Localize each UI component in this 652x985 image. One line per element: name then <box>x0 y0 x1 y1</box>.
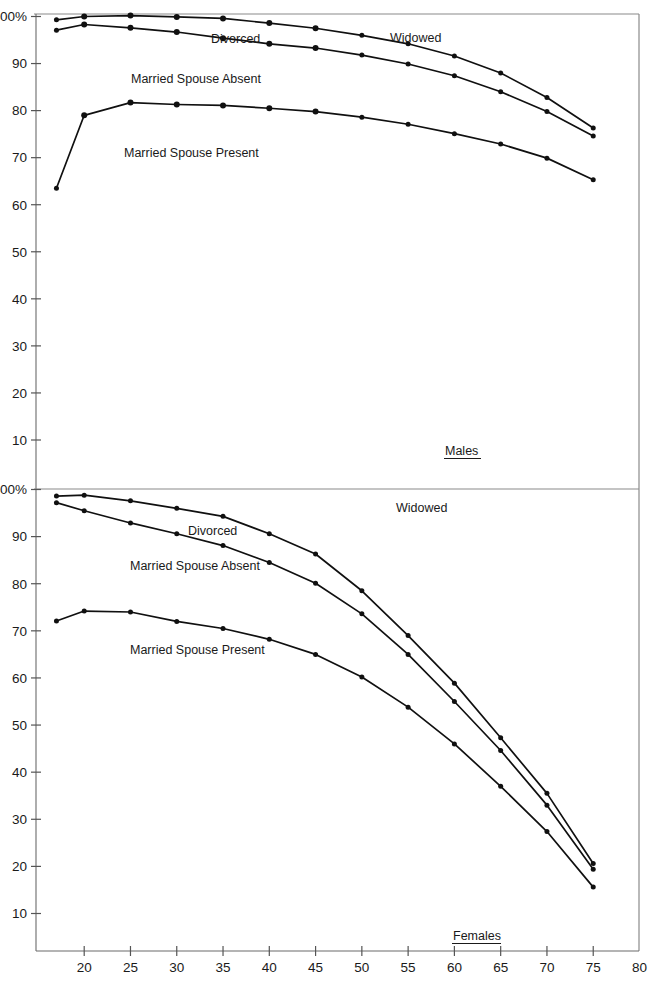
y-tick-label: 30 <box>12 812 27 827</box>
data-point <box>591 861 596 866</box>
data-point <box>82 493 87 498</box>
annotation-married-spouse-absent: Married Spouse Absent <box>131 72 261 86</box>
data-point <box>313 581 318 586</box>
chart-canvas: 100%908070605040302010DivorcedWidowedMar… <box>0 0 652 985</box>
annotation-married-spouse-absent: Married Spouse Absent <box>130 559 260 573</box>
data-point <box>81 112 87 118</box>
data-point <box>359 675 364 680</box>
x-tick-label: 60 <box>447 960 462 975</box>
data-point <box>267 637 272 642</box>
x-tick-label: 75 <box>586 960 601 975</box>
x-tick-label: 50 <box>354 960 369 975</box>
data-point <box>127 25 133 31</box>
data-point <box>591 126 596 131</box>
data-point <box>174 619 179 624</box>
data-point <box>313 45 319 51</box>
x-tick-label: 25 <box>123 960 138 975</box>
x-tick-label: 45 <box>308 960 323 975</box>
y-tick-label: 70 <box>12 624 27 639</box>
panel-label-females: Females <box>453 929 501 943</box>
data-point <box>54 494 59 499</box>
annotation-divorced: Divorced <box>188 524 237 538</box>
annotation-widowed: Widowed <box>396 501 447 515</box>
y-tick-label: 60 <box>12 198 27 213</box>
data-point <box>544 803 549 808</box>
data-point <box>452 131 457 136</box>
data-point <box>174 531 179 536</box>
data-point <box>452 54 457 59</box>
x-tick-label: 65 <box>493 960 508 975</box>
data-point <box>313 652 318 657</box>
y-tick-label: 20 <box>12 859 27 874</box>
y-tick-label: 50 <box>12 245 27 260</box>
data-point <box>220 15 226 21</box>
data-point <box>544 791 549 796</box>
marital-status-chart-figure: 100%908070605040302010DivorcedWidowedMar… <box>0 0 652 985</box>
x-tick-label: 40 <box>262 960 277 975</box>
x-tick-label: 30 <box>169 960 184 975</box>
data-point <box>266 105 272 111</box>
data-point <box>591 867 596 872</box>
data-point <box>406 652 411 657</box>
data-point <box>313 109 319 115</box>
y-tick-label: 70 <box>12 150 27 165</box>
y-tick-label: 10 <box>12 906 27 921</box>
y-tick-label: 60 <box>12 671 27 686</box>
data-point <box>54 618 59 623</box>
data-point <box>452 741 457 746</box>
y-tick-label: 90 <box>12 529 27 544</box>
data-point <box>54 28 59 33</box>
y-tick-label: 90 <box>12 56 27 71</box>
annotation-divorced: Divorced <box>211 32 260 46</box>
data-point <box>174 14 180 20</box>
data-point <box>221 543 226 548</box>
data-point <box>544 156 549 161</box>
data-point <box>591 177 596 182</box>
data-point <box>127 13 133 19</box>
data-point <box>359 588 364 593</box>
data-point <box>174 101 180 107</box>
data-point <box>498 748 503 753</box>
data-point <box>406 62 411 67</box>
data-point <box>359 33 364 38</box>
data-point <box>267 531 272 536</box>
series-line-divorced <box>56 503 593 870</box>
annotation-married-spouse-present: Married Spouse Present <box>124 146 259 160</box>
data-point <box>498 89 503 94</box>
y-tick-label: 80 <box>12 577 27 592</box>
panel-label-males: Males <box>445 444 478 458</box>
data-point <box>54 500 59 505</box>
x-tick-label: 35 <box>216 960 231 975</box>
data-point <box>127 100 133 106</box>
x-tick-label: 70 <box>539 960 554 975</box>
data-point <box>452 699 457 704</box>
data-point <box>81 14 87 20</box>
data-point <box>128 520 133 525</box>
y-tick-label: 10 <box>12 433 27 448</box>
y-tick-label: 80 <box>12 103 27 118</box>
data-point <box>591 134 596 139</box>
data-point <box>313 552 318 557</box>
y-tick-label: 100% <box>0 482 27 497</box>
data-point <box>266 41 272 47</box>
data-point <box>452 681 457 686</box>
data-point <box>591 885 596 890</box>
y-tick-label: 100% <box>0 9 27 24</box>
data-point <box>544 109 549 114</box>
data-point <box>221 514 226 519</box>
x-tick-label: 20 <box>77 960 92 975</box>
data-point <box>498 142 503 147</box>
annotation-widowed: Widowed <box>390 31 441 45</box>
x-tick-label: 55 <box>401 960 416 975</box>
data-point <box>406 633 411 638</box>
data-point <box>498 70 503 75</box>
data-point <box>54 17 59 22</box>
data-point <box>128 498 133 503</box>
data-point <box>174 506 179 511</box>
data-point <box>81 22 87 28</box>
y-tick-label: 40 <box>12 292 27 307</box>
data-point <box>54 186 59 191</box>
data-point <box>544 829 549 834</box>
series-line-widowed <box>56 495 593 863</box>
data-point <box>544 95 549 100</box>
